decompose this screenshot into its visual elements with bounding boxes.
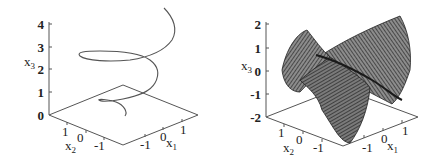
left-x2-tick-neg1: -1 [94,138,105,153]
right-z-label: x3 [241,58,253,75]
right-ztick-neg2: -2 [250,110,261,125]
left-ztick-3: 3 [38,40,45,55]
left-x2-label: x2 [65,138,76,155]
left-x2-tick-1: 1 [62,124,69,139]
left-ztick-4: 4 [38,17,45,32]
right-x2-tick-1: 1 [278,125,285,140]
right-x2-label: x2 [283,140,294,157]
right-x2-tick-0: 0 [296,132,303,147]
left-x1-tick-neg1: -1 [140,137,151,152]
left-x1-label: x1 [166,135,177,152]
right-ztick-1: 1 [255,41,262,56]
right-x2-tick-neg1: -1 [313,140,324,155]
left-ztick-0: 0 [38,108,45,123]
figure: 4 3 2 1 0 x3 1 0 -1 x2 -1 0 1 x1 [0,0,441,166]
left-ztick-2: 2 [38,62,45,77]
left-ztick-1: 1 [38,85,45,100]
left-base-plane [49,85,198,145]
right-ztick-0: 0 [255,64,262,79]
left-plot: 4 3 2 1 0 x3 1 0 -1 x2 -1 0 1 x1 [24,8,198,155]
right-ztick-neg1: -1 [250,87,261,102]
left-z-label: x3 [24,54,36,71]
right-plot: 2 1 0 -1 -2 x3 1 0 -1 x2 -1 0 1 [241,16,418,157]
right-x1-tick-neg1: -1 [362,140,373,155]
right-ztick-2: 2 [255,17,262,32]
left-x2-tick-0: 0 [77,130,84,145]
right-x1-label: x1 [387,138,398,155]
right-x1-tick-1: 1 [402,123,409,138]
left-x1-tick-1: 1 [180,122,187,137]
